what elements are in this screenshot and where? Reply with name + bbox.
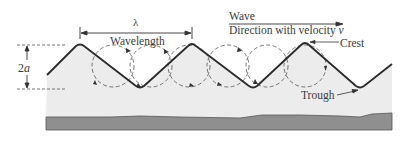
lambda-symbol: λ — [133, 16, 139, 28]
crest-pointer — [310, 41, 339, 44]
arrow-right-icon — [185, 31, 191, 35]
water-body — [46, 43, 392, 118]
arrow-up-icon — [25, 46, 29, 51]
arrow-down-icon — [25, 83, 29, 88]
amplitude-label: 2a — [18, 61, 30, 75]
direction-label: Direction with velocity v — [229, 24, 345, 37]
trough-label: Trough — [301, 89, 335, 102]
arrow-left-icon — [81, 31, 87, 35]
water-wave-diagram: 2a λ Wavelength Wave Direction with velo… — [0, 0, 411, 141]
wave-label: Wave — [229, 10, 255, 22]
wavelength-label: Wavelength — [110, 35, 165, 48]
orbit-arrow-icon — [164, 49, 169, 54]
orbit-arrow-icon — [253, 79, 258, 84]
arrow-left-icon — [310, 41, 315, 44]
crest-label: Crest — [340, 37, 365, 49]
orbit-arrow-icon — [126, 48, 131, 53]
